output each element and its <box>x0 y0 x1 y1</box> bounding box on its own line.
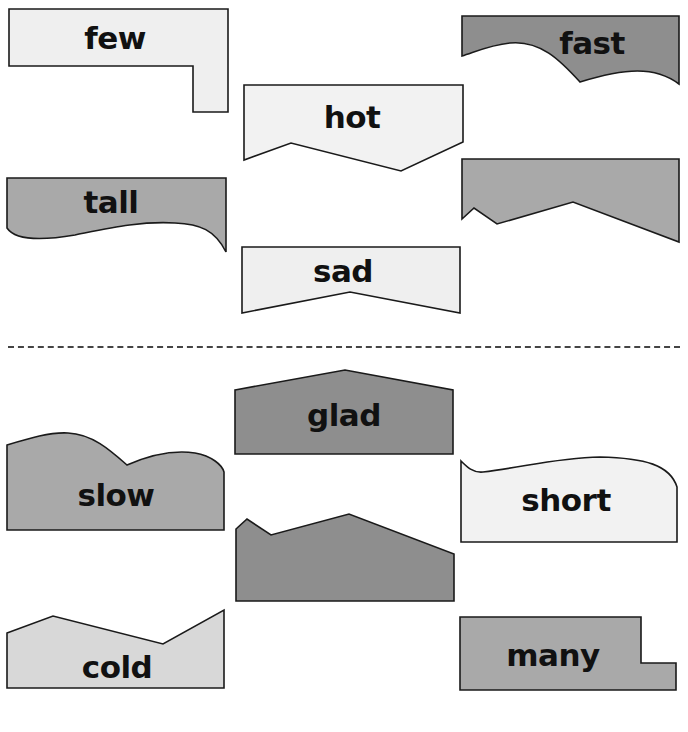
puzzle-piece-few[interactable]: few <box>0 0 240 120</box>
piece-word: sad <box>313 256 373 287</box>
dashed-cut-line <box>8 346 680 348</box>
piece-word: glad <box>307 400 381 431</box>
piece-shape <box>455 150 688 250</box>
piece-word: short <box>521 485 610 516</box>
puzzle-piece-short[interactable]: short <box>455 445 688 550</box>
puzzle-piece-hot[interactable]: hot <box>230 75 470 180</box>
piece-shape <box>0 0 240 120</box>
puzzle-piece-slow[interactable]: slow <box>0 420 240 540</box>
puzzle-piece-blank[interactable] <box>455 150 688 250</box>
piece-word: many <box>506 640 600 671</box>
piece-word: slow <box>77 480 154 511</box>
puzzle-piece-glad[interactable]: glad <box>225 360 465 465</box>
puzzle-piece-fast[interactable]: fast <box>455 10 688 90</box>
piece-word: cold <box>82 652 153 683</box>
puzzle-piece-tall[interactable]: tall <box>0 170 240 260</box>
puzzle-piece-sad[interactable]: sad <box>230 240 470 320</box>
puzzle-piece-blank[interactable] <box>225 505 465 610</box>
puzzle-piece-cold[interactable]: cold <box>0 600 240 700</box>
piece-word: few <box>84 23 146 54</box>
piece-word: tall <box>84 187 139 218</box>
piece-word: fast <box>559 28 625 59</box>
piece-shape <box>225 505 465 610</box>
piece-word: hot <box>324 102 381 133</box>
puzzle-piece-many[interactable]: many <box>455 605 688 700</box>
